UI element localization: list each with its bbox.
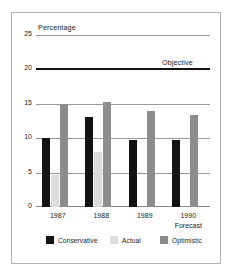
bar-actual-1987 [51, 175, 59, 207]
legend-item-optimistic: Optimistic [160, 235, 202, 245]
y-tick-label: 15 [16, 99, 32, 106]
y-tick-label: 0 [16, 202, 32, 209]
legend-swatch-conservative [46, 236, 54, 244]
bar-optimistic-1990 [190, 115, 198, 207]
chart-legend: ConservativeActualOptimistic [36, 235, 210, 247]
bar-conservative-1989 [129, 140, 137, 207]
bar-optimistic-1989 [147, 111, 155, 207]
y-tick-label: 5 [16, 168, 32, 175]
x-tick-label: 1987 [36, 211, 80, 221]
legend-item-actual: Actual [110, 235, 141, 245]
legend-label: Conservative [58, 237, 98, 244]
chart-title: Percentage [38, 23, 76, 32]
bar-optimistic-1988 [103, 102, 111, 207]
bar-conservative-1990 [172, 140, 180, 207]
chart-figure: Percentage 0510152025 Objective 19871988… [11, 12, 221, 264]
bar-optimistic-1987 [60, 104, 68, 207]
y-tick-label: 20 [16, 64, 32, 71]
x-tick-label: 1989 [123, 211, 167, 221]
objective-label: Objective [162, 58, 193, 67]
y-tick-label: 10 [16, 133, 32, 140]
legend-item-conservative: Conservative [46, 235, 98, 245]
bar-conservative-1988 [85, 117, 93, 207]
bar-conservative-1987 [42, 138, 50, 207]
x-tick-year: 1987 [50, 212, 66, 219]
legend-swatch-optimistic [160, 236, 168, 244]
x-tick-label: 1990Forecast [167, 211, 211, 230]
y-tick-label: 25 [16, 30, 32, 37]
x-tick-label: 1988 [80, 211, 124, 221]
legend-swatch-actual [110, 236, 118, 244]
objective-line [36, 68, 210, 70]
x-tick-year: 1989 [137, 212, 153, 219]
plot-area: Percentage 0510152025 Objective 19871988… [36, 21, 210, 207]
x-tick-year: 1990 [180, 212, 196, 219]
gridline [36, 35, 210, 36]
x-tick-sublabel: Forecast [167, 221, 211, 231]
legend-label: Actual [122, 237, 141, 244]
legend-label: Optimistic [172, 237, 202, 244]
x-tick-year: 1988 [93, 212, 109, 219]
bar-actual-1988 [94, 152, 102, 207]
